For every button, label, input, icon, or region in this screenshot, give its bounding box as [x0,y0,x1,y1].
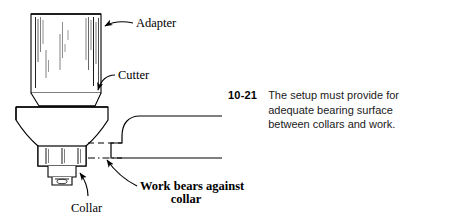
figure-number: 10-21 [228,88,257,101]
label-work-bears-line2: collar [171,192,202,206]
collar-assembly [38,146,86,185]
label-collar: Collar [71,201,103,215]
workpiece [111,116,222,158]
label-adapter: Adapter [136,16,177,30]
work-bears-leader-line [107,160,137,186]
caption-line-3: between collars and work. [268,117,399,132]
arbor-nut-upper [48,166,76,177]
figure-page: Adapter Cutter Collar Work bears against… [0,0,462,223]
adapter-taper [31,93,101,106]
caption-text: The setup must provide for adequate bear… [268,88,399,132]
arbor-nut-detail-2 [57,179,67,183]
adapter-outline [31,14,101,93]
workpiece-outline [111,116,222,158]
caption-line-1: The setup must provide for [268,88,399,103]
adapter-leader-line [105,22,133,26]
figure-caption: 10-21 The setup must provide for adequat… [228,88,456,132]
reference-lines [88,143,122,158]
adapter-body [31,14,101,106]
label-cutter: Cutter [118,68,150,82]
collar-leader-line [80,173,88,196]
caption-row: 10-21 The setup must provide for adequat… [228,88,456,132]
caption-line-2: adequate bearing surface [268,103,399,118]
label-work-bears-line1: Work bears against [140,179,245,193]
